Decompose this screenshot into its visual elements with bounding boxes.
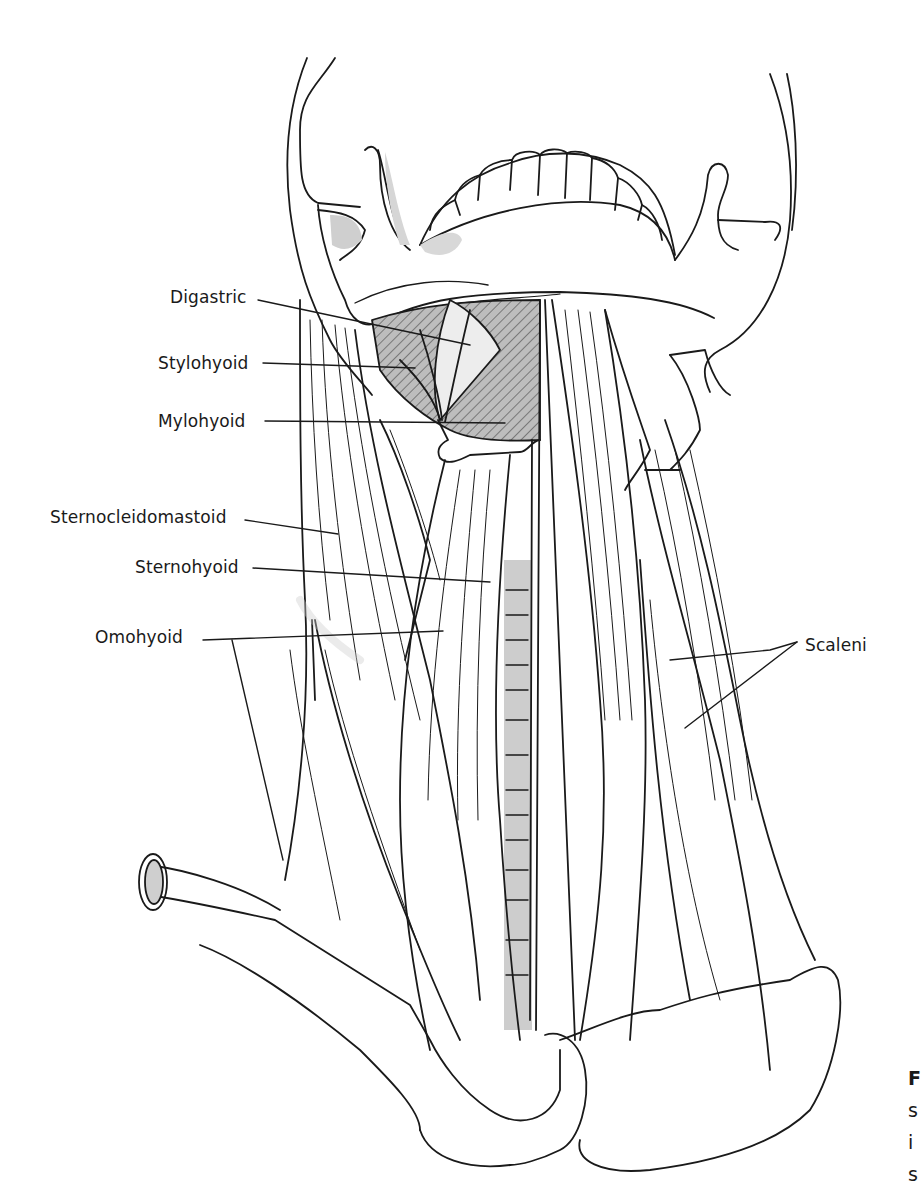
label-stylohyoid: Stylohyoid	[158, 353, 248, 373]
mandible	[287, 58, 796, 395]
caption-fragment: F	[908, 1067, 921, 1089]
label-digastric: Digastric	[170, 287, 247, 307]
caption-fragment: s	[908, 1099, 918, 1121]
infrahyoid-muscles	[380, 420, 520, 1050]
label-sternocleidomastoid: Sternocleidomastoid	[50, 507, 227, 527]
sternocleidomastoid-right	[552, 300, 650, 1040]
label-sternohyoid: Sternohyoid	[135, 557, 239, 577]
leader-omohyoid-2	[232, 640, 283, 860]
leader-sternohyoid	[253, 568, 490, 582]
scaleni-muscles	[640, 350, 815, 1070]
suprahyoid-muscles	[372, 300, 540, 441]
label-scaleni: Scaleni	[805, 635, 867, 655]
label-mylohyoid: Mylohyoid	[158, 411, 246, 431]
leader-sternocleidomastoid	[245, 520, 338, 534]
label-omohyoid: Omohyoid	[95, 627, 183, 647]
caption-fragment: i	[908, 1131, 913, 1153]
clavicle-left	[139, 854, 560, 1166]
caption-fragment: s	[908, 1163, 918, 1185]
